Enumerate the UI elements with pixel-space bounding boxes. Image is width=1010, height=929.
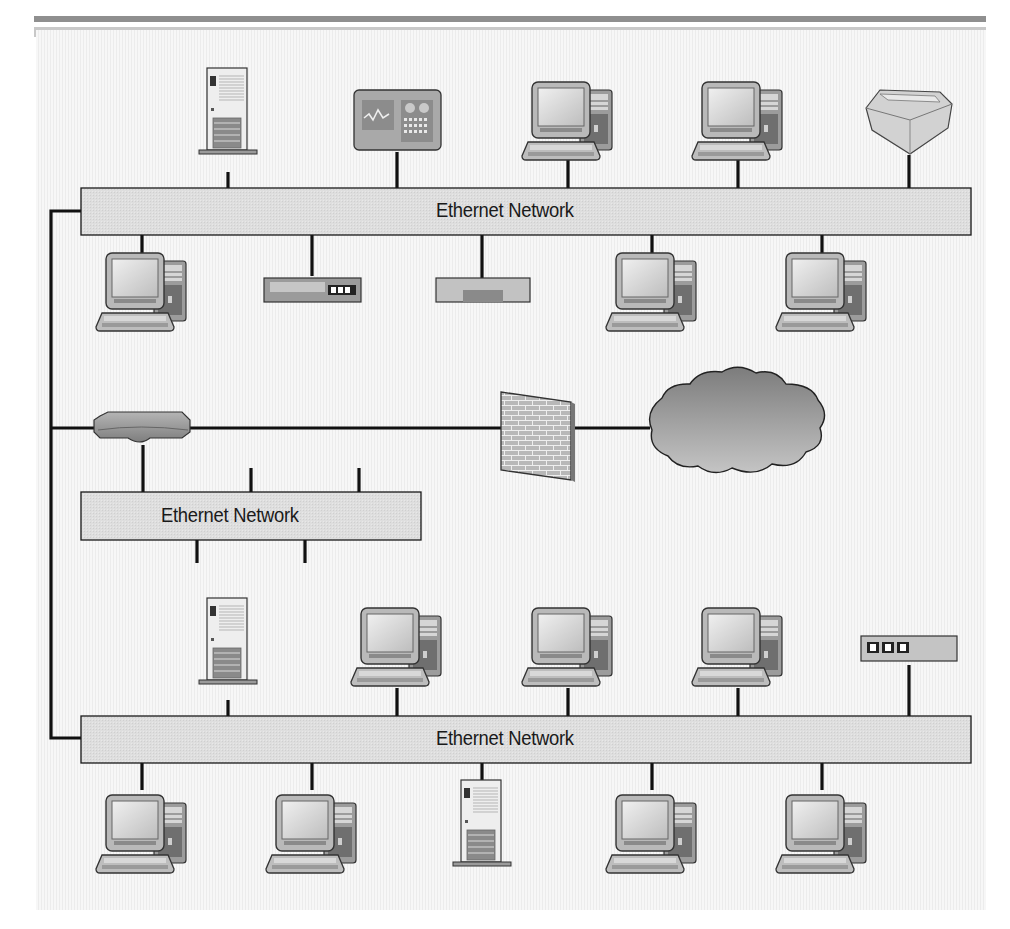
workstation-icon <box>96 253 186 331</box>
workstation-icon <box>522 608 612 686</box>
hub-icon <box>861 636 957 661</box>
control-panel-icon <box>354 90 441 150</box>
network-label-bottom: Ethernet Network <box>436 727 574 750</box>
workstation-icon <box>606 253 696 331</box>
workstation-icon <box>606 795 696 873</box>
workstation-icon <box>522 82 612 160</box>
workstation-icon <box>96 795 186 873</box>
tower-server-icon <box>199 598 257 684</box>
internet-cloud-icon <box>650 367 825 472</box>
tower-server-icon <box>453 780 511 866</box>
wiring <box>51 152 909 790</box>
workstation-icon <box>351 608 441 686</box>
switch-icon <box>436 278 530 302</box>
printer-icon <box>866 90 952 154</box>
tower-server-icon <box>199 68 257 154</box>
firewall-icon <box>501 392 575 482</box>
network-diagram: Ethernet Network Ethernet Network Ethern… <box>0 0 1010 929</box>
workstation-icon <box>692 608 782 686</box>
network-label-middle: Ethernet Network <box>161 504 299 527</box>
router-icon <box>94 412 190 442</box>
workstation-icon <box>266 795 356 873</box>
hub-icon <box>264 278 361 302</box>
workstation-icon <box>776 795 866 873</box>
workstation-icon <box>776 253 866 331</box>
diagram-canvas <box>0 0 1010 929</box>
network-label-top: Ethernet Network <box>436 199 574 222</box>
workstation-icon <box>692 82 782 160</box>
